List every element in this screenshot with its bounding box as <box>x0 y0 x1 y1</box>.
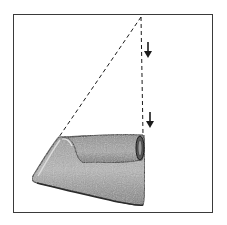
down-arrow-icon <box>146 112 154 128</box>
illustration <box>0 0 227 225</box>
vertical-guide-line <box>141 17 143 135</box>
diagonal-guide-line <box>59 17 141 137</box>
down-arrow-icon <box>144 42 152 58</box>
folded-fabric <box>32 135 144 206</box>
